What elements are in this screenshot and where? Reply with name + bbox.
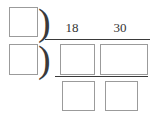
answer-box-inner-dividend-right[interactable]	[100, 44, 148, 75]
division-bracket-inner: )	[38, 40, 51, 78]
answer-box-quotient-right[interactable]	[105, 81, 138, 111]
answer-box-quotient-left[interactable]	[62, 81, 95, 111]
answer-box-outer-divisor[interactable]	[9, 7, 38, 37]
answer-box-inner-divisor[interactable]	[9, 44, 38, 75]
division-bar-outer	[45, 39, 150, 40]
dividend-digit-30: 30	[105, 21, 135, 34]
division-bracket-outer: )	[38, 3, 51, 41]
long-division-worksheet: ) 18 30 )	[0, 0, 154, 116]
dividend-digit-18: 18	[58, 21, 86, 34]
division-bar-inner	[55, 76, 148, 77]
answer-box-inner-dividend-left[interactable]	[60, 44, 95, 75]
